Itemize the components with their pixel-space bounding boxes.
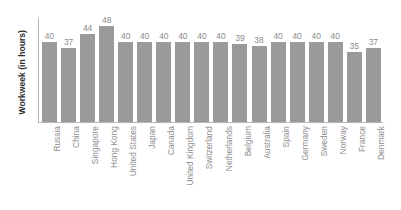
bar-value-label: 40 bbox=[216, 32, 225, 40]
tick-slot: Germany bbox=[288, 126, 307, 206]
bar[interactable] bbox=[309, 42, 324, 122]
bar-slot: 40 bbox=[288, 18, 307, 122]
bar-slot: 40 bbox=[116, 18, 135, 122]
x-axis-line bbox=[38, 122, 383, 123]
tick-slot: Spain bbox=[269, 126, 288, 206]
bar[interactable] bbox=[194, 42, 209, 122]
tick-slot: Japan bbox=[135, 126, 154, 206]
bar-value-label: 44 bbox=[83, 24, 92, 32]
y-axis-line bbox=[38, 18, 39, 123]
bar[interactable] bbox=[42, 42, 57, 122]
bar-value-label: 48 bbox=[102, 16, 111, 24]
bar-value-label: 37 bbox=[64, 38, 73, 46]
bar[interactable] bbox=[61, 48, 76, 122]
tick-slot: China bbox=[59, 126, 78, 206]
bar-value-label: 40 bbox=[273, 32, 282, 40]
bar[interactable] bbox=[175, 42, 190, 122]
tick-slot: Switzerland bbox=[192, 126, 211, 206]
bar-slot: 35 bbox=[345, 18, 364, 122]
bar-series: 403744484040404040403938404040403537 bbox=[40, 18, 383, 122]
bar-slot: 44 bbox=[78, 18, 97, 122]
bar[interactable] bbox=[328, 42, 343, 122]
bar-value-label: 40 bbox=[197, 32, 206, 40]
bar-slot: 40 bbox=[173, 18, 192, 122]
bar[interactable] bbox=[156, 42, 171, 122]
tick-slot: Canada bbox=[154, 126, 173, 206]
bar-slot: 48 bbox=[97, 18, 116, 122]
bar-slot: 40 bbox=[135, 18, 154, 122]
bar-value-label: 40 bbox=[312, 32, 321, 40]
bar-slot: 40 bbox=[192, 18, 211, 122]
bar-value-label: 40 bbox=[331, 32, 340, 40]
bar[interactable] bbox=[366, 48, 381, 122]
bar[interactable] bbox=[252, 46, 267, 122]
bar-chart-figure: Workweek (in hours) 40374448404040404040… bbox=[0, 0, 401, 210]
tick-slot: Sweden bbox=[307, 126, 326, 206]
bar-value-label: 40 bbox=[178, 32, 187, 40]
bar-value-label: 38 bbox=[254, 36, 263, 44]
tick-slot: Singapore bbox=[78, 126, 97, 206]
bar-slot: 38 bbox=[250, 18, 269, 122]
y-axis-title: Workweek (in hours) bbox=[14, 18, 30, 126]
bar-value-label: 39 bbox=[235, 34, 244, 42]
bar[interactable] bbox=[290, 42, 305, 122]
y-axis-title-text: Workweek (in hours) bbox=[18, 30, 27, 114]
bar-value-label: 40 bbox=[292, 32, 301, 40]
tick-slot: United States bbox=[116, 126, 135, 206]
bar[interactable] bbox=[118, 42, 133, 122]
bar-value-label: 40 bbox=[140, 32, 149, 40]
x-axis-tick-labels: RussiaChinaSingaporeHong KongUnited Stat… bbox=[40, 126, 383, 206]
bar[interactable] bbox=[347, 52, 362, 122]
bar-slot: 40 bbox=[269, 18, 288, 122]
tick-slot: Hong Kong bbox=[97, 126, 116, 206]
bar[interactable] bbox=[137, 42, 152, 122]
bar-value-label: 37 bbox=[369, 38, 378, 46]
x-axis-tick-label: Denmark bbox=[377, 126, 385, 160]
tick-slot: Russia bbox=[40, 126, 59, 206]
bar-value-label: 40 bbox=[121, 32, 130, 40]
bar-value-label: 35 bbox=[350, 42, 359, 50]
bar[interactable] bbox=[80, 34, 95, 122]
bar-slot: 40 bbox=[326, 18, 345, 122]
tick-slot: Australia bbox=[250, 126, 269, 206]
tick-slot: Norway bbox=[326, 126, 345, 206]
tick-slot: Netherlands bbox=[211, 126, 230, 206]
bar-value-label: 40 bbox=[45, 32, 54, 40]
bar-slot: 37 bbox=[59, 18, 78, 122]
bar-slot: 40 bbox=[154, 18, 173, 122]
bar[interactable] bbox=[232, 44, 247, 122]
bar[interactable] bbox=[271, 42, 286, 122]
bar[interactable] bbox=[99, 26, 114, 122]
bar-slot: 40 bbox=[211, 18, 230, 122]
bar-slot: 39 bbox=[230, 18, 249, 122]
bar-slot: 40 bbox=[40, 18, 59, 122]
plot-area: 403744484040404040403938404040403537 bbox=[38, 18, 383, 123]
bar-value-label: 40 bbox=[159, 32, 168, 40]
bar[interactable] bbox=[213, 42, 228, 122]
bar-slot: 40 bbox=[307, 18, 326, 122]
tick-slot: Denmark bbox=[364, 126, 383, 206]
tick-slot: Belgium bbox=[230, 126, 249, 206]
tick-slot: United Kingdom bbox=[173, 126, 192, 206]
tick-slot: France bbox=[345, 126, 364, 206]
bar-slot: 37 bbox=[364, 18, 383, 122]
